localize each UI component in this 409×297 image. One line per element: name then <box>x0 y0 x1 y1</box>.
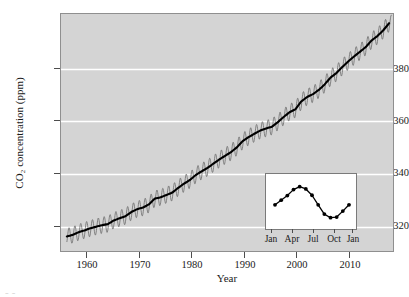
inset-data-point <box>322 212 326 216</box>
caption-artifact: -- <box>5 286 18 297</box>
inset-data-point <box>273 203 277 207</box>
inset-data-point <box>279 198 283 202</box>
x-tick-label-2010: 2010 <box>330 259 370 270</box>
inset-data-point <box>292 188 296 192</box>
x-axis-title: Year <box>60 272 394 284</box>
x-tick-label-1980: 1980 <box>172 259 212 270</box>
inset-data-point <box>347 203 351 207</box>
inset-data-point <box>341 209 345 213</box>
inset-data-point <box>298 185 302 189</box>
inset-data-point <box>304 187 308 191</box>
x-tick-label-1970: 1970 <box>120 259 160 270</box>
inset-data-point <box>335 215 339 219</box>
inset-seasonal-svg <box>266 174 357 230</box>
x-tick-label-1960: 1960 <box>67 259 107 270</box>
inset-data-point <box>285 194 289 198</box>
y-axis-title: CO₂ concentration (ppm) <box>13 48 25 218</box>
inset-data-point <box>316 203 320 207</box>
main-plot-panel <box>60 13 394 252</box>
x-tick-label-2000: 2000 <box>277 259 317 270</box>
inset-x-tick-jan-end: Jan <box>338 234 368 244</box>
inset-data-point <box>329 216 333 220</box>
inset-seasonal-line <box>275 187 349 218</box>
x-tick-label-1990: 1990 <box>225 259 265 270</box>
inset-data-point <box>310 193 314 197</box>
seasonal-cycle-inset-panel <box>265 173 357 230</box>
co2-keeling-curve-figure: CO₂ concentration (ppm) 380 360 340 320 <box>0 0 409 297</box>
